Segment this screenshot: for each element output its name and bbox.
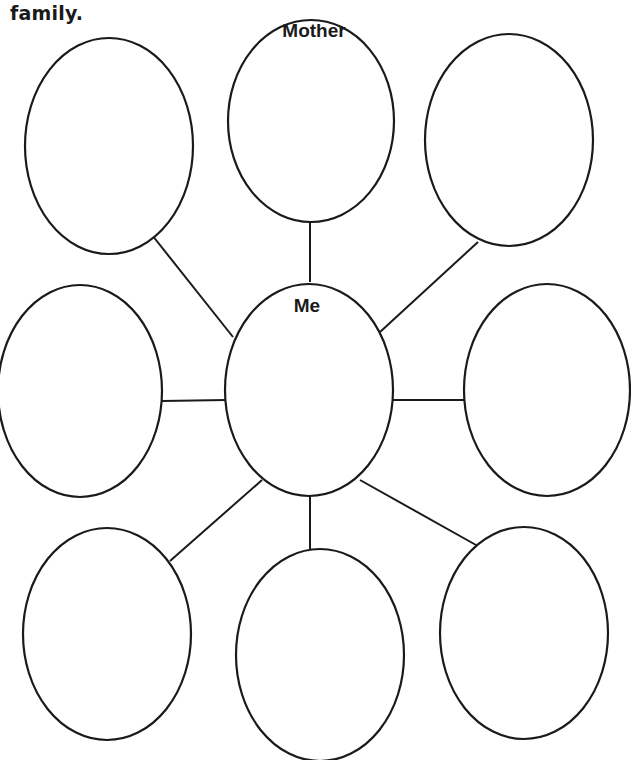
bubble-label-top-middle: Mother: [282, 20, 346, 41]
bubble-bottom-middle[interactable]: [236, 549, 404, 760]
bubble-top-left[interactable]: [25, 38, 193, 254]
connector-top-right: [380, 242, 478, 332]
bubble-bottom-right[interactable]: [440, 527, 608, 739]
connector-middle-left: [162, 400, 226, 401]
bubble-middle-right[interactable]: [464, 284, 630, 496]
bubble-bottom-left[interactable]: [23, 528, 191, 740]
bubble-top-right[interactable]: [425, 34, 593, 246]
connector-bottom-left: [170, 480, 262, 561]
family-web-diagram: Mother Me: [0, 0, 631, 760]
bubble-top-middle[interactable]: [228, 20, 394, 222]
bubble-middle-left[interactable]: [0, 285, 162, 497]
connector-bottom-right: [360, 480, 476, 545]
bubble-label-center-me: Me: [294, 295, 320, 316]
connector-top-left: [152, 235, 233, 337]
